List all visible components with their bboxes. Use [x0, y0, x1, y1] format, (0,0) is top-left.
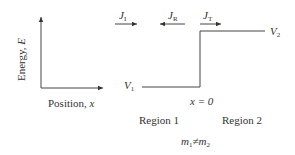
transmitted-current-label: JT: [203, 10, 212, 23]
region2-label: Region 2: [222, 115, 262, 126]
mass-relation: m1≠m2: [181, 136, 210, 149]
reflected-current-label: JR: [168, 10, 178, 23]
v2-label: V2: [270, 26, 280, 39]
y-axis-label: Energy, E: [16, 38, 27, 81]
region1-label: Region 1: [139, 115, 179, 126]
v1-label: V1: [124, 80, 134, 93]
potential-step: [142, 31, 265, 87]
x-axis-label: Position, x: [48, 98, 94, 109]
incident-current-label: JI: [119, 10, 126, 23]
potential-step-diagram: [0, 0, 295, 155]
boundary-label: x = 0: [190, 96, 213, 107]
